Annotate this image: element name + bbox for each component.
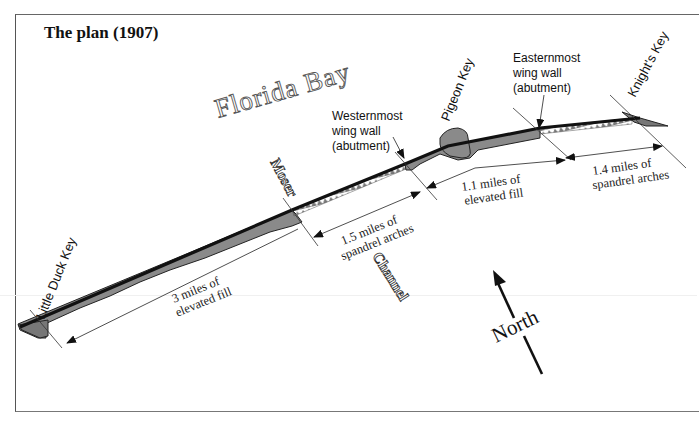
west-wall-pointer <box>393 137 404 158</box>
east-wall-annotation: Easternmost wing wall (abutment) <box>512 51 581 95</box>
west-wall-annotation: Westernmost wing wall (abutment) <box>331 109 403 153</box>
east-wall-pointer <box>539 95 544 128</box>
segment-label-1-4mi: 1.4 miles of spandrel arches <box>589 154 670 193</box>
segment-label-1-1mi: 1.1 miles of elevated fill <box>460 172 524 208</box>
svg-text:wing wall: wing wall <box>512 66 562 80</box>
north-label: North <box>488 304 543 347</box>
bridge-deck <box>20 118 640 327</box>
svg-text:Westernmost: Westernmost <box>332 109 403 123</box>
diagram-title: The plan (1907) <box>44 23 158 42</box>
svg-text:wing wall: wing wall <box>331 124 381 138</box>
north-arrow-head-icon <box>493 270 506 286</box>
north-arrow-shaft-upper <box>497 281 514 318</box>
svg-text:(abutment): (abutment) <box>513 81 571 95</box>
svg-text:Easternmost: Easternmost <box>513 51 581 65</box>
svg-text:(abutment): (abutment) <box>332 139 390 153</box>
moser-label: Moser <box>267 156 300 200</box>
pigeon-key-label: Pigeon Key <box>438 55 477 123</box>
north-arrow: North <box>488 270 543 374</box>
knights-key-label: Knight's Key <box>624 28 671 99</box>
segment-label-3mi: 3 miles of elevated fill <box>168 271 234 319</box>
dimension-3mi <box>67 229 298 343</box>
north-arrow-shaft-lower <box>524 336 542 374</box>
channel-label: Channel <box>369 249 411 303</box>
